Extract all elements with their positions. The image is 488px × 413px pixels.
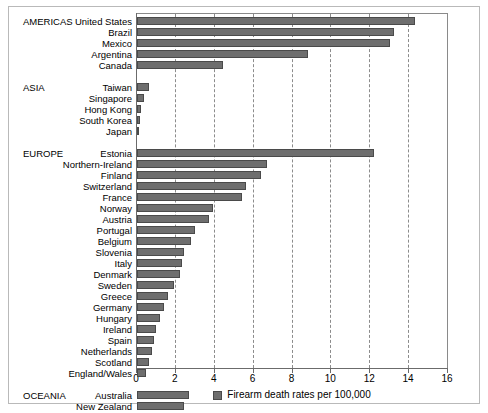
bar <box>137 17 415 25</box>
group-label-europe: EUROPE <box>23 148 63 159</box>
bar <box>137 314 160 322</box>
bar-row: Italy <box>9 258 488 269</box>
bar-row: Mexico <box>9 38 488 49</box>
category-label: Denmark <box>39 269 132 280</box>
bar-row: Canada <box>9 60 488 71</box>
category-label: Portugal <box>39 225 132 236</box>
category-label: Belgium <box>39 236 132 247</box>
category-label: Switzerland <box>39 181 132 192</box>
bar <box>137 28 394 36</box>
category-label: Italy <box>39 258 132 269</box>
category-label: Mexico <box>39 38 132 49</box>
bar-row: Sweden <box>9 280 488 291</box>
bar <box>137 116 140 124</box>
bar-row: Hong Kong <box>9 104 488 115</box>
bar <box>137 94 144 102</box>
group-label-oceania: OCEANIA <box>23 390 66 401</box>
bar <box>137 259 182 267</box>
bar <box>137 336 154 344</box>
bar-row: England/Wales <box>9 368 488 379</box>
bar-row: Brazil <box>9 27 488 38</box>
bar <box>137 292 168 300</box>
category-label: Northern-Ireland <box>39 159 132 170</box>
bar-row: Denmark <box>9 269 488 280</box>
category-label: Netherlands <box>39 346 132 357</box>
bar-row: Singapore <box>9 93 488 104</box>
bar-row: Belgium <box>9 236 488 247</box>
category-label: Hungary <box>39 313 132 324</box>
bar <box>137 160 267 168</box>
bar <box>137 226 195 234</box>
category-label: Taiwan <box>39 82 132 93</box>
bar-row: Norway <box>9 203 488 214</box>
bar-row: Finland <box>9 170 488 181</box>
category-label: Hong Kong <box>39 104 132 115</box>
bar-row: Greece <box>9 291 488 302</box>
bar-row: Portugal <box>9 225 488 236</box>
category-label: Argentina <box>39 49 132 60</box>
bar-row: Northern-Ireland <box>9 159 488 170</box>
bar <box>137 347 152 355</box>
bar-row: Hungary <box>9 313 488 324</box>
category-label: Austria <box>39 214 132 225</box>
bar-row: Slovenia <box>9 247 488 258</box>
category-label: Germany <box>39 302 132 313</box>
bar <box>137 105 141 113</box>
bar <box>137 204 213 212</box>
bar <box>137 248 184 256</box>
bar-row: Ireland <box>9 324 488 335</box>
bar <box>137 149 374 157</box>
bar <box>137 39 390 47</box>
bar <box>137 237 191 245</box>
category-label: Sweden <box>39 280 132 291</box>
category-label: Spain <box>39 335 132 346</box>
category-label: Norway <box>39 203 132 214</box>
category-label: England/Wales <box>39 368 132 379</box>
bar-row: South Korea <box>9 115 488 126</box>
legend-swatch-icon <box>213 391 222 400</box>
bar <box>137 270 180 278</box>
bar <box>137 61 223 69</box>
bar <box>137 171 261 179</box>
bar <box>137 182 246 190</box>
category-label: Singapore <box>39 93 132 104</box>
category-label: Finland <box>39 170 132 181</box>
bar <box>137 358 149 366</box>
legend-label: Firearm death rates per 100,000 <box>227 389 370 401</box>
bar <box>137 281 174 289</box>
bar <box>137 127 139 135</box>
bar <box>137 325 156 333</box>
group-label-asia: ASIA <box>23 82 45 93</box>
bar-row: Spain <box>9 335 488 346</box>
bar <box>137 215 209 223</box>
chart-frame: 0246810121416 United StatesBrazilMexicoA… <box>8 6 480 404</box>
category-label: Japan <box>39 126 132 137</box>
bar-row: Estonia <box>9 148 488 159</box>
category-label: France <box>39 192 132 203</box>
category-label: New Zealand <box>39 401 132 412</box>
bar <box>137 50 308 58</box>
category-label: Greece <box>39 291 132 302</box>
bar-row: Austria <box>9 214 488 225</box>
bar-row: Netherlands <box>9 346 488 357</box>
category-label: Canada <box>39 60 132 71</box>
bar-row: Argentina <box>9 49 488 60</box>
bar <box>137 83 149 91</box>
bar <box>137 369 146 377</box>
bar-row: New Zealand <box>9 401 488 412</box>
bar-row: Germany <box>9 302 488 313</box>
bar <box>137 193 242 201</box>
bar-row: France <box>9 192 488 203</box>
bar <box>137 303 164 311</box>
chart-legend: Firearm death rates per 100,000 <box>136 388 448 402</box>
category-label: Brazil <box>39 27 132 38</box>
category-label: Scotland <box>39 357 132 368</box>
category-label: South Korea <box>39 115 132 126</box>
bar <box>137 402 184 410</box>
category-label: Slovenia <box>39 247 132 258</box>
bar-row: Japan <box>9 126 488 137</box>
category-label: Ireland <box>39 324 132 335</box>
bar-row: United States <box>9 16 488 27</box>
bar-row: Taiwan <box>9 82 488 93</box>
bar-row: Scotland <box>9 357 488 368</box>
